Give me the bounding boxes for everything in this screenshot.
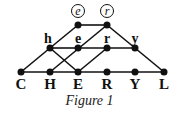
mid-label-r: r (104, 31, 110, 46)
edges (21, 25, 164, 72)
top-label-r: r (105, 4, 110, 18)
bottom-label-C: C (16, 76, 27, 92)
figure-caption: Figure 1 (0, 93, 179, 109)
bottom-label-E: E (73, 76, 83, 92)
circled-labels: e r (72, 4, 114, 18)
bottom-label-L: L (159, 76, 169, 92)
bottom-label-H: H (44, 76, 56, 92)
bottom-label-R: R (102, 76, 113, 92)
mid-label-y: y (132, 31, 139, 46)
mid-label-h: h (44, 31, 52, 46)
bottom-labels: C H E R Y L (16, 76, 169, 92)
top-label-e: e (75, 4, 81, 18)
mid-label-e: e (75, 31, 81, 46)
bottom-label-Y: Y (130, 76, 141, 92)
